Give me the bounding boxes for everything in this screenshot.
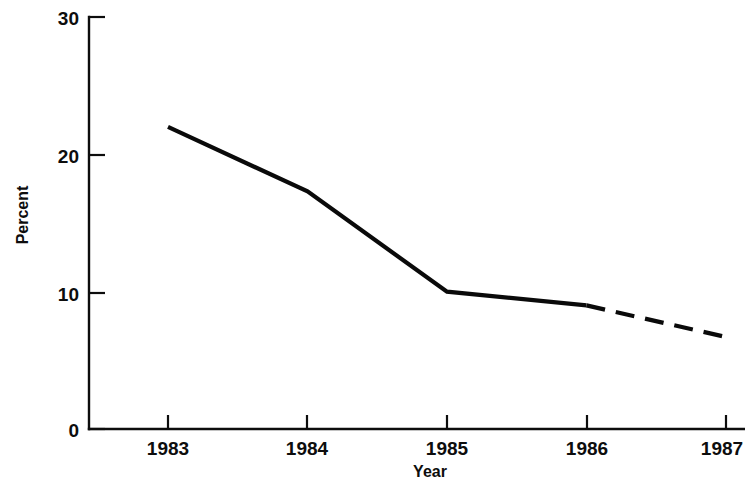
series-line-dashed-projection — [587, 305, 727, 337]
x-tick-marks — [168, 415, 726, 429]
y-axis-title: Percent — [14, 185, 31, 244]
y-tick-label-0: 0 — [68, 420, 79, 441]
series-line-solid — [168, 127, 587, 306]
y-tick-label-10: 10 — [58, 284, 79, 305]
y-tick-labels: 30 20 10 0 — [58, 8, 79, 441]
x-tick-label-1984: 1984 — [286, 438, 329, 459]
x-tick-labels: 1983 1984 1985 1986 1987 — [147, 438, 743, 459]
data-series-percent — [168, 127, 726, 337]
x-tick-label-1985: 1985 — [426, 438, 469, 459]
chart-canvas: 30 20 10 0 1983 1984 1985 1986 1987 Year… — [0, 0, 745, 482]
x-tick-label-1983: 1983 — [147, 438, 189, 459]
y-tick-marks — [89, 17, 105, 429]
x-tick-label-1986: 1986 — [566, 438, 608, 459]
x-axis-title: Year — [413, 463, 447, 480]
y-tick-label-20: 20 — [58, 146, 79, 167]
x-tick-label-1987: 1987 — [701, 438, 743, 459]
y-tick-label-30: 30 — [58, 8, 79, 29]
axis-group — [89, 17, 744, 429]
line-chart: 30 20 10 0 1983 1984 1985 1986 1987 Year… — [0, 0, 745, 482]
